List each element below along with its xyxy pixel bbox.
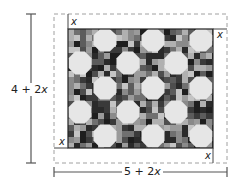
quilt-diagram: x x x x 4 + 2x 5 + 2x xyxy=(0,0,240,186)
border-label-bottom-right: x xyxy=(205,151,211,161)
quilt-image xyxy=(68,29,213,148)
border-label-bottom-left: x xyxy=(59,137,65,147)
border-label-top-right: x xyxy=(217,30,223,40)
height-label-variable: x xyxy=(41,83,48,96)
height-label-number: 4 + 2 xyxy=(11,83,41,96)
width-label-number: 5 + 2 xyxy=(124,165,154,178)
width-label: 5 + 2x xyxy=(122,166,163,177)
height-label: 4 + 2x xyxy=(11,83,48,96)
width-label-variable: x xyxy=(154,165,161,178)
border-label-top-left: x xyxy=(71,17,77,27)
